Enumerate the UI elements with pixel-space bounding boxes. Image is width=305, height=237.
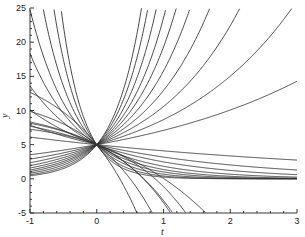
- y-axis-title: y: [0, 113, 10, 119]
- x-axis-title: t: [161, 226, 164, 237]
- solution-curves-chart: -50510152025 -10123 y t: [0, 0, 305, 237]
- solution-curve: [30, 10, 166, 171]
- x-tick-label: 3: [294, 216, 299, 226]
- x-tick-label: -1: [26, 216, 34, 226]
- solution-curve: [30, 9, 210, 166]
- y-tick-label: 20: [16, 37, 26, 47]
- solution-curve: [30, 53, 297, 178]
- y-tick-label: 25: [16, 3, 26, 13]
- y-tick-label: 0: [21, 174, 26, 184]
- curves: [30, 8, 297, 212]
- x-tick-label: 1: [161, 216, 166, 226]
- x-tick-label: 2: [228, 216, 233, 226]
- x-tick-label: 0: [94, 216, 99, 226]
- solution-curve: [30, 125, 297, 170]
- solution-curve: [30, 123, 170, 212]
- y-axis: -50510152025: [16, 3, 34, 218]
- x-axis: -10123: [26, 209, 300, 226]
- solution-curve: [30, 9, 240, 163]
- y-tick-label: 15: [16, 71, 26, 81]
- y-tick-label: 10: [16, 106, 26, 116]
- solution-curve: [30, 10, 190, 168]
- y-tick-label: -5: [18, 208, 26, 218]
- y-tick-label: 5: [21, 140, 26, 150]
- solution-curve: [54, 10, 297, 179]
